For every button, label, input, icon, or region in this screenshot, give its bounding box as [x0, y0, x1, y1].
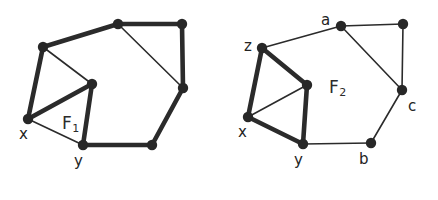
graph-edge	[262, 26, 341, 48]
face-label-F1: F1	[62, 115, 79, 132]
graph-edge	[303, 85, 307, 144]
graph-node-b	[366, 138, 376, 148]
graph-edge	[83, 84, 92, 145]
graph-drawing-svg	[0, 0, 438, 200]
graph-node-x	[243, 112, 253, 122]
graph-node	[87, 79, 97, 89]
graph-node	[398, 19, 408, 29]
vertex-label-b: b	[359, 152, 369, 167]
graph-node	[302, 80, 312, 90]
graph-node	[147, 140, 157, 150]
face-label-subscript: 2	[339, 86, 346, 99]
right-graph-edges	[248, 24, 403, 144]
graph-edge	[248, 117, 303, 144]
vertex-label-a: a	[321, 13, 330, 28]
edges-layer	[28, 24, 403, 145]
graph-node-a	[336, 21, 346, 31]
graph-edge	[43, 24, 118, 47]
vertex-label-c: c	[408, 99, 416, 114]
graph-node-y	[298, 139, 308, 149]
left-graph-edges	[28, 24, 183, 145]
right-graph-nodes	[243, 19, 408, 149]
graph-node	[113, 19, 123, 29]
graph-edge	[303, 143, 371, 144]
vertex-label-y: y	[74, 154, 83, 169]
graph-node	[178, 83, 188, 93]
vertex-label-y: y	[294, 153, 303, 168]
vertex-label-z: z	[244, 39, 252, 54]
graph-edge	[118, 24, 183, 88]
graph-node-y	[78, 140, 88, 150]
graph-edge	[28, 84, 92, 119]
graph-node-z	[257, 43, 267, 53]
graph-edge	[262, 48, 307, 85]
graph-edge	[248, 48, 262, 117]
vertex-label-x: x	[238, 125, 247, 140]
graph-edge	[341, 26, 402, 90]
left-graph-nodes	[23, 19, 188, 150]
graph-edge	[182, 24, 183, 88]
graph-edge	[28, 47, 43, 119]
graph-node-x	[23, 114, 33, 124]
face-label-subscript: 1	[72, 122, 79, 135]
graph-edge	[43, 47, 92, 84]
graph-edge	[248, 85, 307, 117]
graph-edge	[371, 90, 402, 143]
nodes-layer	[23, 19, 408, 150]
graph-edge	[341, 24, 403, 26]
figure-canvas: xyF1azcxybF2	[0, 0, 438, 200]
graph-node-c	[397, 85, 407, 95]
face-label-F2: F2	[329, 79, 346, 96]
vertex-label-x: x	[19, 127, 28, 142]
graph-node	[38, 42, 48, 52]
face-label-base: F	[62, 113, 72, 133]
graph-node	[177, 19, 187, 29]
graph-edge	[152, 88, 183, 145]
graph-edge	[402, 24, 403, 90]
face-label-base: F	[329, 77, 339, 97]
